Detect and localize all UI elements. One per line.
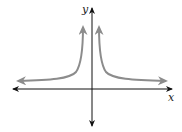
curve-right-branch — [99, 27, 166, 81]
curve-left-branch — [18, 27, 83, 81]
x-axis-label: x — [168, 91, 174, 104]
function-graph — [0, 0, 182, 132]
y-axis-label: y — [82, 3, 88, 16]
